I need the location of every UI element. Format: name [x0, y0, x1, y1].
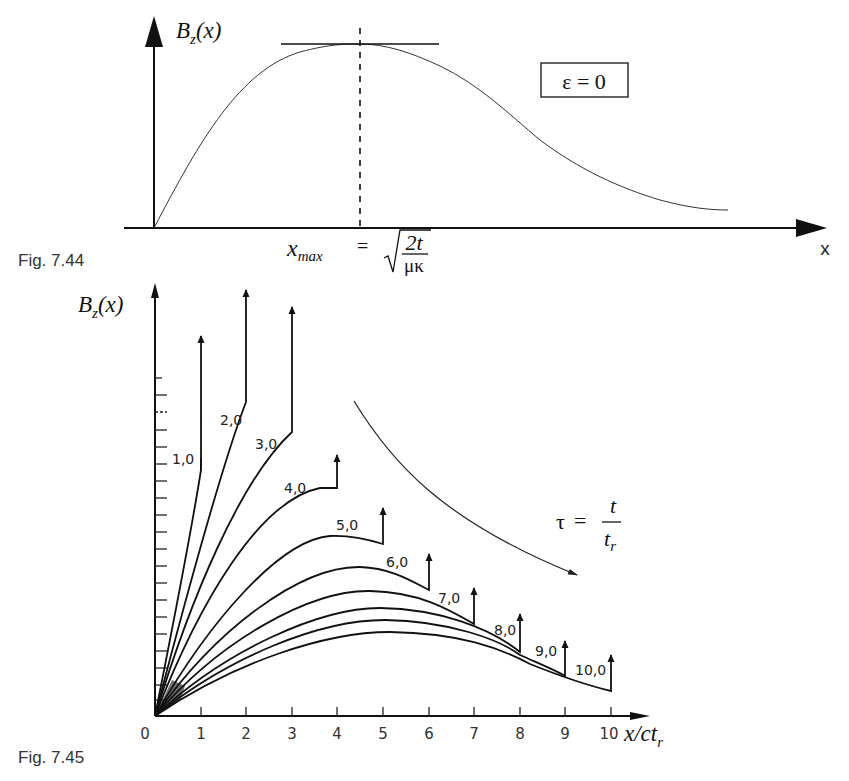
svg-text:τ: τ: [556, 509, 565, 534]
svg-text:3,0: 3,0: [255, 436, 277, 452]
tau-formula: τ = t tr: [556, 493, 621, 554]
epsilon-label: ε = 0: [562, 69, 606, 94]
bottom-x-axis-arrow-icon: [630, 712, 650, 720]
svg-text:3: 3: [287, 725, 297, 743]
bottom-y-axis-arrow-icon: [151, 283, 159, 298]
bottom-curve-labels: 1,0 2,0 3,0 4,0 5,0 6,0 7,0 8,0 9,0 10,0: [172, 412, 606, 678]
svg-text:6,0: 6,0: [386, 554, 408, 570]
svg-text:9,0: 9,0: [535, 643, 557, 659]
svg-text:4: 4: [332, 725, 342, 743]
top-y-label: Bz(x): [176, 18, 221, 47]
top-curve-bz: [154, 44, 728, 228]
figure-7-45: 0 1 2 3 4 5 6 7 8 9 10: [18, 283, 663, 767]
svg-text:0: 0: [140, 725, 150, 743]
bottom-x-label: x/ctr: [623, 721, 663, 750]
figure-7-44: Bz(x) ε = 0 x xmax = 2t μκ Fig. 7.44: [18, 16, 830, 276]
svg-text:=: =: [574, 508, 586, 533]
svg-text:6: 6: [424, 725, 434, 743]
svg-text:5,0: 5,0: [336, 517, 358, 533]
svg-text:t: t: [610, 493, 617, 518]
svg-text:=: =: [357, 235, 368, 257]
svg-text:8,0: 8,0: [494, 622, 516, 638]
svg-text:5: 5: [378, 725, 388, 743]
figure-canvas: Bz(x) ε = 0 x xmax = 2t μκ Fig. 7.44: [0, 0, 849, 781]
svg-text:7,0: 7,0: [438, 590, 460, 606]
svg-text:4,0: 4,0: [284, 480, 306, 496]
svg-text:8: 8: [515, 725, 525, 743]
svg-text:2: 2: [241, 725, 251, 743]
svg-text:1: 1: [196, 725, 206, 743]
svg-text:10: 10: [599, 725, 618, 743]
tau-direction-arrow: [354, 401, 577, 575]
svg-text:2t: 2t: [405, 230, 423, 255]
svg-text:10,0: 10,0: [575, 662, 606, 678]
curve-tau-3: [155, 307, 292, 716]
svg-text:xmax: xmax: [286, 235, 323, 264]
svg-text:2,0: 2,0: [220, 412, 242, 428]
bottom-y-ticks: [155, 378, 167, 700]
svg-text:1,0: 1,0: [172, 451, 194, 467]
svg-text:μκ: μκ: [404, 255, 424, 276]
top-x-label: x: [820, 238, 830, 259]
top-y-axis-arrow-icon: [145, 16, 163, 47]
caption-fig-7-45: Fig. 7.45: [18, 748, 84, 767]
svg-text:9: 9: [560, 725, 570, 743]
caption-fig-7-44: Fig. 7.44: [18, 251, 84, 270]
svg-text:7: 7: [469, 725, 479, 743]
svg-text:tr: tr: [604, 526, 616, 554]
bottom-y-label: Bz(x): [78, 292, 123, 321]
bottom-x-tick-labels: 0 1 2 3 4 5 6 7 8 9 10: [140, 725, 618, 743]
xmax-formula: xmax = 2t μκ: [286, 230, 431, 276]
top-x-axis-arrow-icon: [796, 219, 827, 237]
curve-tau-7: [155, 588, 474, 716]
bottom-x-ticks: [201, 707, 611, 716]
